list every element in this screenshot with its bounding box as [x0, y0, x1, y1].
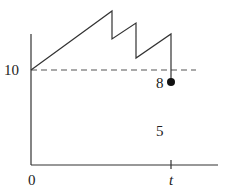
- sawtooth-diagram: 10 8 5 0 t: [0, 0, 230, 196]
- sawtooth-path: [31, 11, 171, 82]
- end-point-dot: [167, 78, 175, 86]
- x-label-t: t: [169, 172, 174, 188]
- label-5: 5: [156, 123, 164, 139]
- y-label-10: 10: [4, 62, 19, 78]
- label-8: 8: [156, 75, 164, 91]
- x-label-0: 0: [28, 172, 36, 188]
